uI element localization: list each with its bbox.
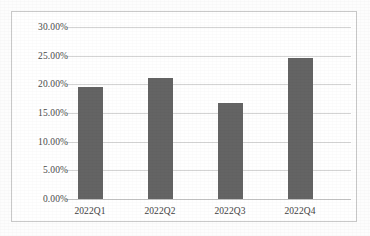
- bar-chart-figure: 30.00% 25.00% 20.00% 15.00% 10.00% 5.00%…: [0, 0, 370, 236]
- chart-plot-frame: [11, 11, 357, 222]
